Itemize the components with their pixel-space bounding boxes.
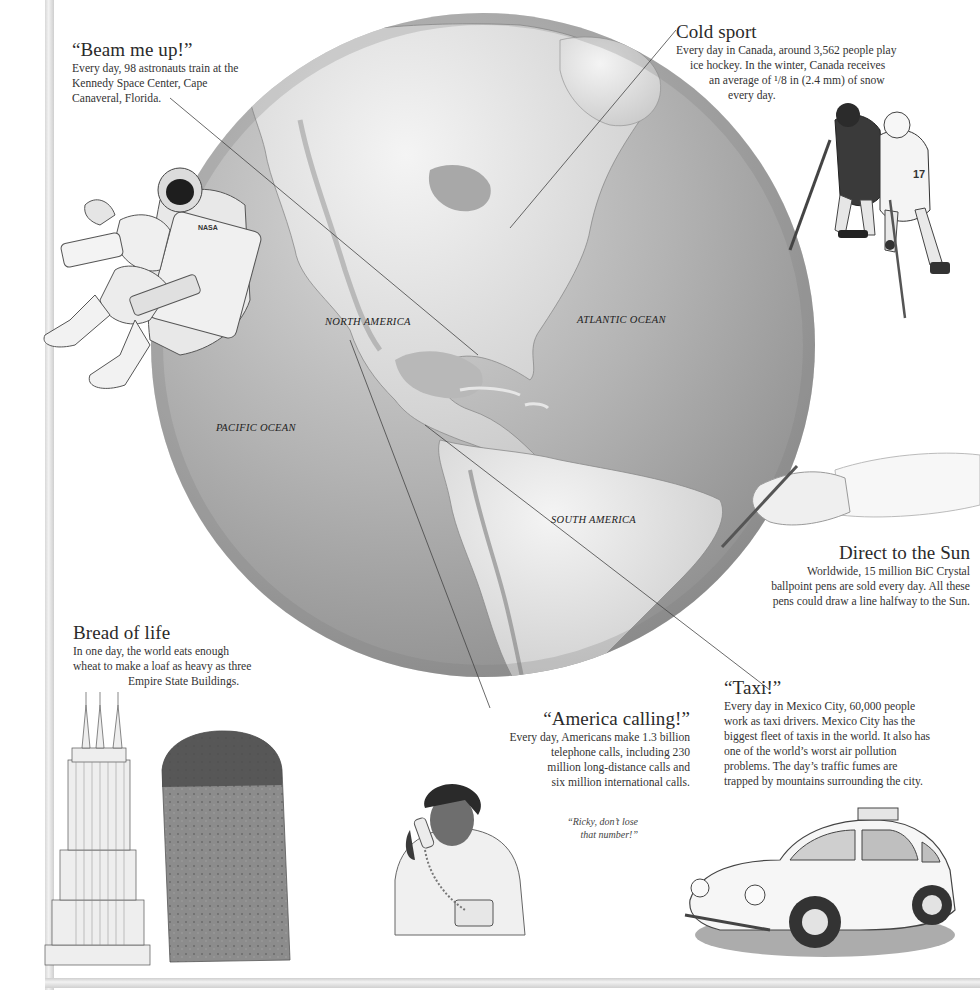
globe bbox=[151, 13, 815, 694]
caption-line: telephone calls, including 230 bbox=[430, 745, 690, 760]
vw-taxi-illustration bbox=[685, 808, 955, 957]
caption-line: million long-distance calls and bbox=[430, 760, 690, 775]
caption-title: “Taxi!” bbox=[724, 677, 980, 699]
globe-illustration: NASA 17 bbox=[0, 0, 980, 1007]
caption-title: Bread of life bbox=[73, 622, 293, 644]
svg-text:17: 17 bbox=[913, 168, 925, 180]
hockey-players-illustration: 17 bbox=[790, 103, 950, 318]
bread-loaf-illustration bbox=[162, 731, 290, 962]
svg-text:NASA: NASA bbox=[198, 224, 218, 231]
caption-line: In one day, the world eats enough bbox=[73, 644, 293, 659]
caption-line: ballpoint pens are sold every day. All t… bbox=[720, 579, 970, 594]
caption-line: biggest fleet of taxis in the world. It … bbox=[724, 729, 980, 744]
caption-line: ice hockey. In the winter, Canada receiv… bbox=[676, 58, 936, 73]
caption-title: Direct to the Sun bbox=[720, 542, 970, 564]
map-label-pacific-ocean: PACIFIC OCEAN bbox=[216, 422, 296, 433]
caption-line: wheat to make a loaf as heavy as three bbox=[73, 659, 293, 674]
caption-line: problems. The day’s traffic fumes are bbox=[724, 759, 980, 774]
caption-title: “America calling!” bbox=[430, 708, 690, 730]
caption-line: work as taxi drivers. Mexico City has th… bbox=[724, 714, 980, 729]
caption-line: Empire State Buildings. bbox=[73, 674, 293, 689]
map-label-south-america: SOUTH AMERICA bbox=[551, 514, 636, 525]
caption-line: six million international calls. bbox=[430, 775, 690, 790]
caption-title: Cold sport bbox=[676, 21, 936, 43]
caption-line: Canaveral, Florida. bbox=[72, 91, 312, 106]
map-label-north-america: NORTH AMERICA bbox=[325, 316, 411, 327]
caption-line: one of the world’s worst air pollution bbox=[724, 744, 980, 759]
caption-line: Every day, Americans make 1.3 billion bbox=[430, 730, 690, 745]
caption-cold-sport: Cold sport Every day in Canada, around 3… bbox=[676, 21, 936, 103]
woman-on-phone-illustration bbox=[395, 784, 525, 935]
caption-line: an average of ¹/8 in (2.4 mm) of snow bbox=[676, 73, 936, 88]
quote-line: that number!” bbox=[540, 828, 638, 841]
caption-beam-me-up: “Beam me up!” Every day, 98 astronauts t… bbox=[72, 39, 312, 106]
caption-title: “Beam me up!” bbox=[72, 39, 312, 61]
quote-line: “Ricky, don’t lose bbox=[540, 815, 638, 828]
caption-line: every day. bbox=[676, 88, 936, 103]
caption-line: Every day, 98 astronauts train at the bbox=[72, 61, 312, 76]
caption-bread-of-life: Bread of life In one day, the world eats… bbox=[73, 622, 293, 689]
caption-line: Every day in Mexico City, 60,000 people bbox=[724, 699, 980, 714]
phone-quote: “Ricky, don’t lose that number!” bbox=[540, 815, 638, 841]
caption-direct-to-the-sun: Direct to the Sun Worldwide, 15 million … bbox=[720, 542, 970, 609]
caption-line: Kennedy Space Center, Cape bbox=[72, 76, 312, 91]
caption-line: trapped by mountains surrounding the cit… bbox=[724, 774, 980, 789]
caption-line: Worldwide, 15 million BiC Crystal bbox=[720, 564, 970, 579]
caption-line: pens could draw a line halfway to the Su… bbox=[720, 594, 970, 609]
map-label-atlantic-ocean: ATLANTIC OCEAN bbox=[577, 314, 666, 325]
caption-taxi: “Taxi!” Every day in Mexico City, 60,000… bbox=[724, 677, 980, 789]
empire-state-buildings-illustration bbox=[45, 692, 150, 965]
caption-line: Every day in Canada, around 3,562 people… bbox=[676, 43, 936, 58]
illustration-layer: NASA 17 bbox=[0, 0, 980, 1007]
caption-america-calling: “America calling!” Every day, Americans … bbox=[430, 708, 690, 790]
